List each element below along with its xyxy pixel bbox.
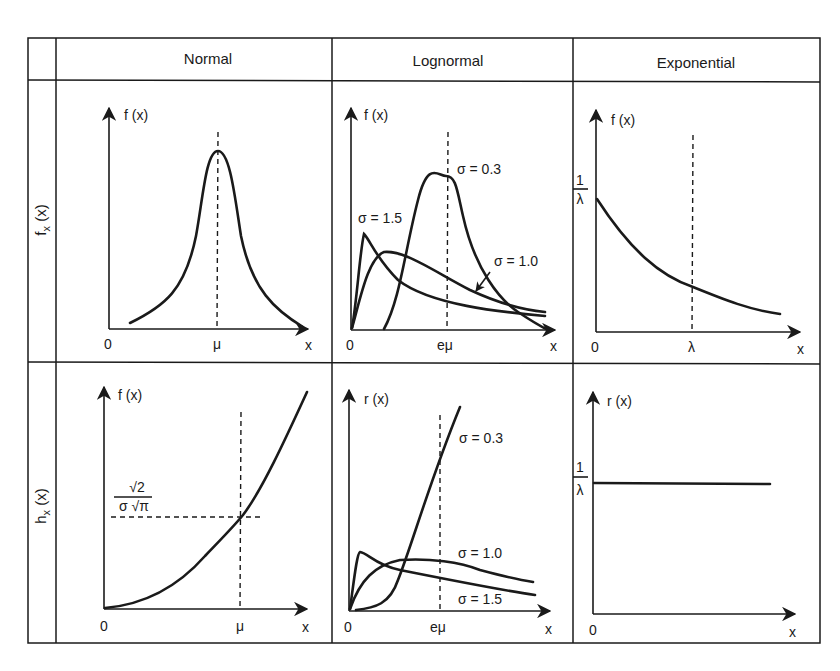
svg-text:μ: μ bbox=[213, 336, 221, 352]
column-header-exponential: Exponential bbox=[657, 54, 735, 71]
y-axis-label: f (x) bbox=[124, 107, 148, 123]
column-header-lognormal: Lognormal bbox=[413, 52, 484, 69]
svg-text:0: 0 bbox=[591, 339, 599, 355]
table-grid bbox=[28, 38, 820, 643]
svg-text:0: 0 bbox=[100, 618, 108, 634]
svg-text:λ: λ bbox=[577, 482, 584, 498]
normal-pdf-curve bbox=[130, 151, 303, 327]
svg-text:eμ: eμ bbox=[437, 337, 453, 353]
panel-normal-hazard: f (x) √2 σ √π 0 μ x bbox=[100, 387, 309, 635]
svg-text:fx (x): fx (x) bbox=[32, 204, 52, 235]
panel-exponential-hazard: r (x) 1 λ 0 x bbox=[573, 392, 796, 640]
svg-text:r (x): r (x) bbox=[364, 391, 389, 407]
exponential-pdf-curve bbox=[597, 199, 780, 314]
svg-text:1: 1 bbox=[576, 459, 584, 475]
svg-text:μ: μ bbox=[236, 618, 244, 634]
svg-text:0: 0 bbox=[346, 337, 354, 353]
svg-text:√2: √2 bbox=[129, 479, 145, 495]
svg-text:x: x bbox=[545, 621, 552, 637]
svg-text:σ = 1.0: σ = 1.0 bbox=[494, 253, 538, 269]
svg-text:λ: λ bbox=[688, 339, 695, 355]
svg-text:0: 0 bbox=[344, 619, 352, 635]
row-label-pdf: fx (x) bbox=[32, 204, 52, 235]
panel-exponential-pdf: f (x) 1 λ 0 λ x bbox=[573, 110, 804, 357]
panel-normal-pdf: f (x) 0 μ x bbox=[104, 107, 312, 353]
svg-text:σ = 0.3: σ = 0.3 bbox=[457, 161, 501, 177]
exponential-hazard-line bbox=[594, 483, 770, 484]
svg-text:0: 0 bbox=[104, 336, 112, 352]
svg-text:1: 1 bbox=[576, 172, 584, 188]
svg-text:λ: λ bbox=[577, 191, 584, 207]
svg-text:x: x bbox=[305, 337, 312, 353]
panel-lognormal-hazard: r (x) σ = 0.3 σ = 1.0 σ = 1.5 0 eμ x bbox=[344, 390, 552, 637]
svg-text:σ = 1.0: σ = 1.0 bbox=[458, 545, 502, 561]
panel-lognormal-pdf: f (x) σ = 0.3 σ = 1.5 σ = 1.0 0 eμ x bbox=[346, 107, 557, 354]
svg-text:r (x): r (x) bbox=[607, 393, 632, 409]
svg-text:x: x bbox=[797, 341, 804, 357]
svg-text:f (x): f (x) bbox=[611, 112, 635, 128]
distribution-comparison-table: Normal Lognormal Exponential fx (x) hx (… bbox=[0, 0, 840, 671]
svg-text:f (x): f (x) bbox=[118, 387, 142, 403]
svg-text:σ = 1.5: σ = 1.5 bbox=[358, 210, 402, 226]
svg-text:eμ: eμ bbox=[430, 619, 446, 635]
svg-text:x: x bbox=[550, 338, 557, 354]
svg-text:x: x bbox=[789, 624, 796, 640]
svg-text:σ = 0.3: σ = 0.3 bbox=[459, 430, 503, 446]
svg-text:σ √π: σ √π bbox=[119, 498, 149, 514]
svg-text:hx (x): hx (x) bbox=[32, 488, 52, 524]
svg-text:f (x): f (x) bbox=[364, 107, 388, 123]
column-header-normal: Normal bbox=[184, 50, 232, 67]
svg-text:σ = 1.5: σ = 1.5 bbox=[458, 591, 502, 607]
row-label-hazard: hx (x) bbox=[32, 488, 52, 524]
lognormal-hazard-sigma-1.0 bbox=[350, 559, 533, 609]
svg-text:0: 0 bbox=[589, 622, 597, 638]
lognormal-pdf-sigma-1.5 bbox=[352, 234, 545, 328]
svg-text:x: x bbox=[302, 619, 309, 635]
